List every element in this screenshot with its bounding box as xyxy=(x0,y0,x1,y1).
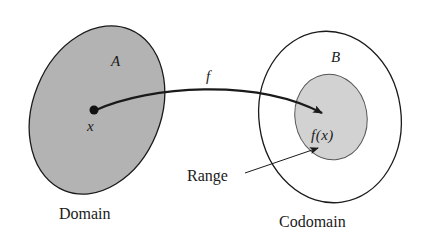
set-label-A: A xyxy=(110,53,121,69)
caption-codomain: Codomain xyxy=(279,213,346,230)
caption-domain: Domain xyxy=(59,205,111,222)
caption-range: Range xyxy=(187,167,228,185)
element-label-x: x xyxy=(86,118,94,134)
image-label-fx: f(x) xyxy=(311,127,334,144)
function-diagram: A x f B f(x) Domain Range Codomain xyxy=(0,0,421,239)
set-label-B: B xyxy=(331,49,340,65)
diagram-svg: A x f B f(x) Domain Range Codomain xyxy=(0,0,421,239)
mapping-label-f: f xyxy=(206,68,212,84)
element-point-x xyxy=(90,106,99,115)
